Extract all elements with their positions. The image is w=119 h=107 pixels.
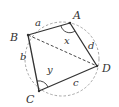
vertex-point-a xyxy=(69,22,71,24)
side-label-b: b xyxy=(20,51,26,62)
angle-label-y: y xyxy=(46,64,53,75)
cyclic-quadrilateral-diagram: A B C D a b c d x y xyxy=(0,0,119,107)
vertex-label-b: B xyxy=(9,31,18,44)
vertex-label-a: A xyxy=(72,9,81,22)
vertex-point-d xyxy=(96,65,98,67)
vertex-point-b xyxy=(27,34,29,36)
side-label-c: c xyxy=(73,77,79,88)
side-label-a: a xyxy=(35,17,41,28)
angle-label-x: x xyxy=(64,35,70,46)
vertex-label-d: D xyxy=(101,62,111,75)
side-label-d: d xyxy=(88,40,94,51)
vertex-point-c xyxy=(38,90,40,92)
vertex-label-c: C xyxy=(26,93,35,106)
